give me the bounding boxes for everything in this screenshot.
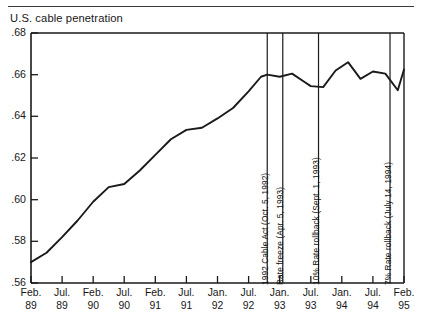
annotation-label: 7% Rate rollback (July 14, 1994) xyxy=(384,162,393,285)
y-tick-label: .60 xyxy=(2,193,26,205)
y-tick-label: .64 xyxy=(2,109,26,121)
y-tick-label: .66 xyxy=(2,68,26,80)
axes xyxy=(31,33,404,283)
chart-plot-area xyxy=(0,0,422,326)
annotation-label: Rate freeze (Apr. 5, 1993) xyxy=(276,187,285,285)
annotation-vertical-lines xyxy=(267,33,390,283)
data-series-line xyxy=(31,62,404,262)
y-tick-marks xyxy=(31,33,38,283)
annotation-label: 1992 Cable Act (Oct. 5, 1992) xyxy=(261,173,270,285)
y-tick-label: .58 xyxy=(2,234,26,246)
annotation-label: 10% Rate rollback (Sept. 1, 1993) xyxy=(312,157,321,285)
figure: U.S. cable penetration xyxy=(0,0,422,326)
y-tick-label: .68 xyxy=(2,26,26,38)
x-tick-label: Feb.95 xyxy=(385,287,422,312)
x-tick-marks xyxy=(31,276,404,283)
y-tick-label: .62 xyxy=(2,151,26,163)
